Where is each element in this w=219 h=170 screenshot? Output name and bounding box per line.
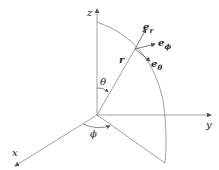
z-axis-label: z bbox=[87, 8, 92, 18]
x-axis-label: x bbox=[12, 148, 18, 158]
spherical-coordinates-diagram bbox=[0, 0, 219, 170]
sphere-arc bbox=[97, 22, 166, 163]
y-axis-label: y bbox=[206, 120, 212, 130]
e-phi-vector bbox=[135, 44, 155, 49]
r-label: r bbox=[119, 55, 124, 65]
projection-line bbox=[97, 115, 165, 163]
theta-label: θ bbox=[100, 77, 106, 87]
e-phi-label: eϕ bbox=[158, 38, 171, 50]
phi-label: ϕ bbox=[90, 129, 97, 139]
e-theta-label: eθ bbox=[151, 59, 162, 71]
e-theta-vector bbox=[135, 49, 150, 61]
theta-arc bbox=[97, 88, 108, 92]
e-r-label: er bbox=[143, 22, 153, 34]
x-axis bbox=[15, 115, 97, 166]
